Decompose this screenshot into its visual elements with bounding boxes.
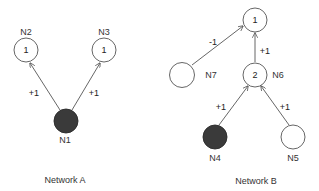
edge-n1-n2 bbox=[30, 63, 60, 110]
node-value-n2: 1 bbox=[23, 45, 28, 55]
edge-n7-top bbox=[192, 26, 243, 65]
edge-weight-n5-n6: +1 bbox=[280, 102, 290, 112]
edge-weight-n1-n2: +1 bbox=[29, 88, 39, 98]
node-n4 bbox=[203, 125, 227, 149]
network-a: +1 +1 N2 1 N3 1 N1 Network A bbox=[14, 27, 116, 185]
node-label-n3: N3 bbox=[98, 27, 110, 37]
network-b: -1 +1 +1 +1 1 N7 2 N6 N4 N5 Network B bbox=[170, 8, 306, 186]
node-label-n7: N7 bbox=[205, 70, 217, 80]
node-label-n6: N6 bbox=[272, 70, 284, 80]
node-n7 bbox=[170, 63, 195, 88]
edge-n1-n3 bbox=[72, 63, 100, 110]
edge-weight-n6-top: +1 bbox=[260, 46, 270, 56]
node-label-n4: N4 bbox=[209, 153, 221, 163]
edge-weight-n7-top: -1 bbox=[209, 37, 217, 47]
node-value-top: 1 bbox=[252, 15, 257, 25]
node-label-n5: N5 bbox=[287, 153, 299, 163]
node-label-n1: N1 bbox=[59, 135, 71, 145]
node-value-n6: 2 bbox=[252, 70, 257, 80]
network-diagrams: +1 +1 N2 1 N3 1 N1 Network A -1 +1 +1 +1… bbox=[0, 0, 319, 191]
caption-network-b: Network B bbox=[235, 176, 277, 186]
node-n5 bbox=[281, 125, 305, 149]
caption-network-a: Network A bbox=[44, 175, 85, 185]
edge-weight-n4-n6: +1 bbox=[216, 102, 226, 112]
node-label-n2: N2 bbox=[20, 27, 32, 37]
edge-weight-n1-n3: +1 bbox=[89, 88, 99, 98]
node-value-n3: 1 bbox=[101, 45, 106, 55]
node-n1 bbox=[54, 109, 78, 133]
